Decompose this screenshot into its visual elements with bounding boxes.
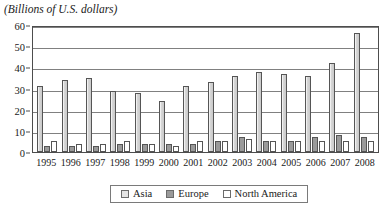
y-tick-label: 0	[20, 148, 25, 159]
bar-group-2006	[303, 27, 327, 152]
bar-northamerica-2004	[270, 141, 276, 152]
bar-northamerica-2005	[295, 141, 301, 152]
x-tick-label-2004: 2004	[255, 156, 280, 172]
x-tick-label-2002: 2002	[206, 156, 231, 172]
bar-europe-1999	[142, 144, 148, 152]
bar-asia-1999	[135, 93, 141, 152]
bar-asia-2002	[208, 82, 214, 152]
bar-northamerica-2007	[343, 141, 349, 152]
bar-asia-2007	[329, 63, 335, 152]
bar-europe-2000	[166, 144, 172, 152]
bar-europe-1995	[44, 146, 50, 152]
x-tick-label-1996: 1996	[59, 156, 84, 172]
bar-asia-2008	[354, 33, 360, 152]
chart-legend: AsiaEuropeNorth America	[110, 185, 308, 203]
bar-europe-1997	[93, 146, 99, 152]
legend-label: North America	[235, 188, 298, 200]
bar-asia-2000	[159, 101, 165, 152]
bar-northamerica-1995	[51, 141, 57, 152]
x-tick-label-1997: 1997	[83, 156, 108, 172]
legend-item-europe[interactable]: Europe	[166, 188, 208, 200]
bar-northamerica-2000	[173, 146, 179, 152]
bar-asia-2004	[256, 72, 262, 152]
legend-swatch-asia-icon	[121, 190, 129, 198]
legend-swatch-europe-icon	[166, 190, 174, 198]
bars-layer	[33, 27, 378, 152]
bar-northamerica-2003	[246, 139, 252, 152]
x-tick-label-1999: 1999	[132, 156, 157, 172]
y-tick-label: 10	[15, 126, 26, 137]
y-tick-label: 60	[15, 21, 26, 32]
bar-northamerica-2006	[319, 141, 325, 152]
bar-europe-2005	[288, 141, 294, 152]
x-tick-label-2006: 2006	[304, 156, 329, 172]
bar-group-2003	[230, 27, 254, 152]
bar-asia-2003	[232, 76, 238, 152]
bar-asia-2001	[183, 86, 189, 152]
bar-group-2001	[181, 27, 205, 152]
bar-asia-1996	[62, 80, 68, 152]
bar-asia-1995	[37, 86, 43, 152]
y-tick-mark	[26, 110, 30, 111]
bar-group-2005	[279, 27, 303, 152]
bar-europe-1996	[69, 146, 75, 152]
y-tick-label: 20	[15, 105, 26, 116]
legend-item-asia[interactable]: Asia	[121, 188, 152, 200]
x-tick-label-2007: 2007	[328, 156, 353, 172]
chart-figure: (Billions of U.S. dollars) 0102030405060…	[0, 0, 391, 218]
bar-northamerica-1999	[149, 144, 155, 152]
x-tick-label-2003: 2003	[230, 156, 255, 172]
legend-label: Europe	[178, 188, 208, 200]
x-tick-label-1995: 1995	[34, 156, 59, 172]
bar-europe-1998	[117, 144, 123, 152]
x-tick-label-2001: 2001	[181, 156, 206, 172]
y-tick-mark	[26, 131, 30, 132]
bar-europe-2002	[215, 141, 221, 152]
bar-group-2008	[352, 27, 376, 152]
y-tick-mark	[26, 153, 30, 154]
x-tick-label-1998: 1998	[108, 156, 133, 172]
y-tick-mark	[26, 89, 30, 90]
bar-europe-2001	[190, 144, 196, 152]
bar-group-1999	[132, 27, 156, 152]
bar-asia-1998	[110, 91, 116, 152]
x-tick-label-2005: 2005	[279, 156, 304, 172]
bar-northamerica-1998	[124, 141, 130, 152]
legend-swatch-northamerica-icon	[223, 190, 231, 198]
y-tick-mark	[26, 26, 30, 27]
bar-europe-2003	[239, 137, 245, 152]
bar-northamerica-1996	[76, 144, 82, 152]
bar-group-2007	[327, 27, 351, 152]
bar-asia-2006	[305, 76, 311, 152]
bar-group-1997	[84, 27, 108, 152]
bar-northamerica-2008	[368, 141, 374, 152]
bar-group-2000	[157, 27, 181, 152]
y-tick-mark	[26, 68, 30, 69]
chart-title: (Billions of U.S. dollars)	[4, 2, 117, 16]
bar-group-1995	[35, 27, 59, 152]
bar-group-1998	[108, 27, 132, 152]
bar-europe-2006	[312, 137, 318, 152]
y-tick-label: 50	[15, 42, 26, 53]
bar-group-2002	[206, 27, 230, 152]
bar-group-1996	[59, 27, 83, 152]
bar-europe-2004	[263, 141, 269, 152]
bar-asia-2005	[281, 74, 287, 152]
legend-label: Asia	[133, 188, 152, 200]
y-tick-label: 40	[15, 63, 26, 74]
x-tick-label-2008: 2008	[353, 156, 378, 172]
y-axis: 0102030405060	[0, 26, 30, 153]
bar-europe-2008	[361, 137, 367, 152]
x-tick-label-2000: 2000	[157, 156, 182, 172]
bar-northamerica-2001	[197, 141, 203, 152]
legend-item-northamerica[interactable]: North America	[223, 188, 298, 200]
y-tick-label: 30	[15, 84, 26, 95]
bar-northamerica-1997	[100, 144, 106, 152]
bar-northamerica-2002	[222, 141, 228, 152]
y-tick-mark	[26, 47, 30, 48]
bar-asia-1997	[86, 78, 92, 152]
bar-europe-2007	[336, 135, 342, 152]
bar-group-2004	[254, 27, 278, 152]
x-axis: 1995199619971998199920002001200220032004…	[32, 156, 379, 172]
plot-area	[32, 26, 379, 153]
